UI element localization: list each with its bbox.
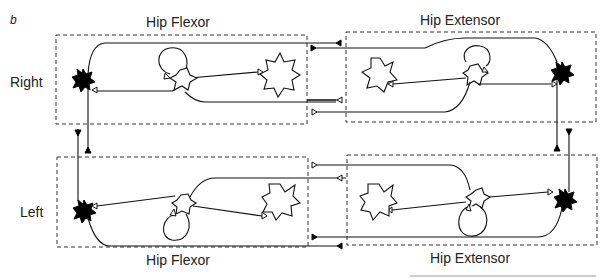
synapse-filled-icon [312,234,317,240]
title-right-hip-extensor: Hip Extensor [420,12,500,28]
side-label-right: Right [10,74,43,90]
synapse-open-icon [548,189,553,195]
synapse-open-icon [92,87,97,93]
synapse-filled-icon [75,130,81,136]
panel-letter: b [10,13,17,27]
axon-lf-in-to-star [193,206,262,216]
module-left-hip-extensor [312,129,577,249]
interneuron-lf [172,194,196,214]
axon-le-bottom [315,208,562,237]
interneuron-large-re [362,58,397,92]
side-label-left: Left [20,204,43,220]
recurrent-loop-re [464,46,490,66]
synapse-filled-icon [337,243,342,249]
module-right-hip-flexor [72,43,336,153]
axon-rf-top [88,43,336,74]
synapse-filled-icon [336,40,341,46]
axon-rf-in-to-star [190,72,258,78]
interneuron-large-rf [260,53,300,97]
axon-le-in-to-mn [490,192,548,197]
axon-re-in-to-star [393,78,466,84]
motoneuron-left-extensor [554,189,577,212]
synapse-open-icon [337,175,342,181]
synapse-open-icon [262,212,267,219]
cpg-circuit-diagram: b Hip Flexor Hip Extensor Hip Flexor Hip… [0,0,606,279]
axon-re-top [313,38,557,62]
recurrent-loop-lf [163,214,189,240]
synapse-filled-icon [85,147,91,153]
synapse-open-icon [337,97,342,103]
synapse-filled-icon [311,45,316,51]
motoneuron-left-flexor [73,200,96,223]
recurrent-loop-le [459,206,487,236]
synapse-filled-icon [554,145,560,151]
motoneuron-right-extensor [551,62,574,85]
title-left-hip-flexor: Hip Flexor [146,252,210,268]
synapse-open-icon [312,109,317,115]
interneuron-large-le [360,184,397,220]
axon-le-in-to-star [392,202,466,210]
interneuron-large-lf [262,184,300,220]
axon-lf-bottom [88,218,340,246]
synapse-open-icon [170,209,176,216]
axon-lf-in-to-mn [97,196,175,206]
synapse-filled-icon [566,129,572,135]
motoneuron-right-flexor [72,69,95,92]
synapse-open-icon [482,67,488,72]
module-left-hip-flexor [73,129,346,246]
synapse-open-icon [312,162,317,168]
module-right-hip-extensor [307,38,574,151]
title-right-hip-flexor: Hip Flexor [146,14,210,30]
synapse-open-icon [552,81,557,87]
axon-rf-in-to-mn [97,86,178,91]
title-left-hip-extensor: Hip Extensor [430,250,510,266]
